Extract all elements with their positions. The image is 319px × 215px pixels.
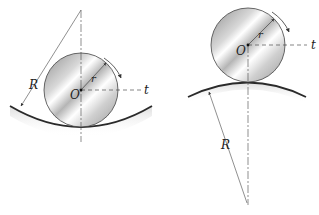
center-point-right [247,44,250,47]
label-t-left: t [144,83,149,97]
label-R-left: R [28,78,38,92]
label-R-right: R [220,138,230,152]
center-point-left [80,89,83,92]
label-O-left: O [70,88,80,102]
label-t-right: t [311,38,316,52]
convex-surface-shadow [188,83,306,104]
left-diagram: O r t R [10,10,152,142]
right-diagram: O r t R [188,8,316,205]
rolling-wheel-diagram: O r t R O r t R [0,0,319,215]
label-O-right: O [236,44,246,58]
